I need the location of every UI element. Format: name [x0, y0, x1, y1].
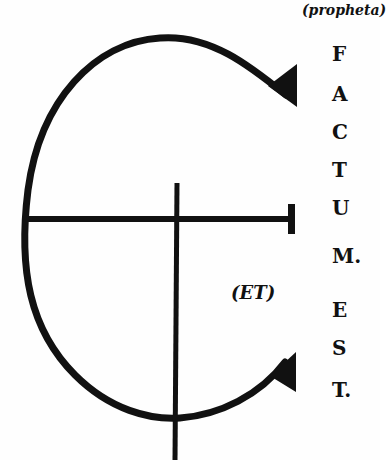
propheta-annotation: (propheta)	[302, 3, 386, 17]
arrowhead-upper-icon	[268, 64, 297, 107]
vertical-bar	[175, 183, 177, 460]
letter-s: S	[332, 338, 366, 358]
letter-e: E	[332, 300, 366, 320]
et-annotation: (ET)	[231, 284, 275, 302]
letter-m: M.	[332, 246, 366, 266]
letter-u: U	[332, 198, 366, 218]
letter-c: C	[332, 122, 366, 142]
horizontal-bar-end-cap	[288, 204, 295, 234]
letter-t-final: T.	[332, 380, 366, 400]
letter-f: F	[332, 44, 366, 64]
c-arc-curve	[25, 38, 286, 419]
letter-t: T	[332, 160, 366, 180]
letter-a: A	[332, 84, 366, 104]
